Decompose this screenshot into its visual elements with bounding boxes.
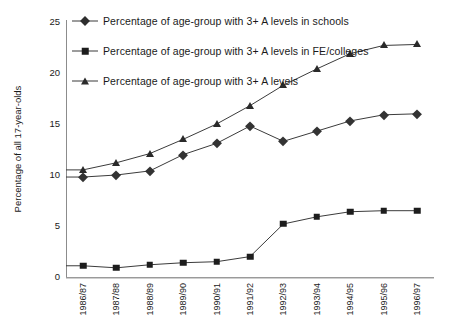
x-axis-tick-label: 1992/93 bbox=[276, 283, 290, 333]
plot-area bbox=[66, 22, 433, 277]
x-axis-tick-label: 1988/89 bbox=[143, 283, 157, 333]
x-axis-tick-label: 1996/97 bbox=[410, 283, 424, 333]
x-axis-line-shadow bbox=[66, 278, 434, 279]
x-axis-tick-label: 1986/87 bbox=[76, 283, 90, 333]
data-point-marker bbox=[380, 41, 388, 48]
data-point-marker bbox=[246, 102, 254, 109]
data-point-marker bbox=[314, 214, 321, 221]
data-point-marker bbox=[414, 207, 421, 214]
legend-item-label: Percentage of age-group with 3+ A levels… bbox=[103, 15, 349, 27]
y-axis-title: Percentage of all 17-year-olds bbox=[10, 18, 24, 280]
series-lines bbox=[66, 22, 433, 277]
line-chart: Percentage of all 17-year-olds 051015202… bbox=[0, 0, 453, 334]
data-point-marker bbox=[147, 262, 154, 269]
y-axis-tick-label: 25 bbox=[38, 17, 60, 27]
square-marker-icon bbox=[72, 45, 98, 57]
data-point-marker bbox=[413, 40, 421, 47]
y-axis-tick-label: 0 bbox=[38, 272, 60, 282]
data-point-marker bbox=[247, 253, 254, 260]
data-point-marker bbox=[112, 159, 120, 166]
y-axis-tick-label: 5 bbox=[38, 221, 60, 231]
x-axis-tick-label: 1989/90 bbox=[176, 283, 190, 333]
data-point-marker bbox=[347, 208, 354, 215]
x-axis-tick-label: 1993/94 bbox=[310, 283, 324, 333]
data-point-marker bbox=[213, 258, 220, 265]
data-point-marker bbox=[179, 135, 187, 142]
x-axis-tick-label: 1990/91 bbox=[210, 283, 224, 333]
y-axis-title-label: Percentage of all 17-year-olds bbox=[12, 86, 23, 213]
legend-item[interactable]: Percentage of age-group with 3+ A levels bbox=[72, 74, 298, 88]
data-point-marker bbox=[380, 207, 387, 214]
x-axis-tick-label: 1991/92 bbox=[243, 283, 257, 333]
legend-item[interactable]: Percentage of age-group with 3+ A levels… bbox=[72, 44, 369, 58]
y-axis-tick-label: 15 bbox=[38, 119, 60, 129]
legend-item-label: Percentage of age-group with 3+ A levels… bbox=[103, 45, 369, 57]
y-axis-tick-label: 20 bbox=[38, 68, 60, 78]
data-point-marker bbox=[80, 263, 87, 270]
data-point-marker bbox=[146, 150, 154, 157]
legend-item-label: Percentage of age-group with 3+ A levels bbox=[103, 75, 298, 87]
x-axis-tick-labels: 1986/871987/881988/891989/901990/911991/… bbox=[0, 283, 453, 334]
legend-item[interactable]: Percentage of age-group with 3+ A levels… bbox=[72, 14, 349, 28]
diamond-marker-icon bbox=[72, 15, 98, 27]
data-point-marker bbox=[180, 259, 187, 266]
x-axis-tick-label: 1995/96 bbox=[377, 283, 391, 333]
data-point-marker bbox=[280, 221, 287, 228]
x-axis-tick-label: 1994/95 bbox=[343, 283, 357, 333]
data-point-marker bbox=[213, 120, 221, 127]
x-axis-tick-label: 1987/88 bbox=[109, 283, 123, 333]
data-point-marker bbox=[79, 166, 87, 173]
y-axis-tick-label: 10 bbox=[38, 170, 60, 180]
data-point-marker bbox=[313, 65, 321, 72]
triangle-marker-icon bbox=[72, 75, 98, 87]
data-point-marker bbox=[113, 265, 120, 272]
